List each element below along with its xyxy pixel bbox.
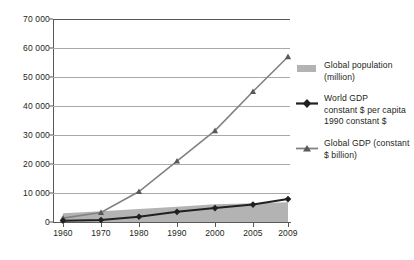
legend-label-line: Global GDP (constant <box>324 138 412 150</box>
x-axis-line <box>53 222 291 223</box>
x-tick-mark <box>177 223 178 227</box>
x-tick-mark <box>215 223 216 227</box>
x-tick-label: 2009 <box>268 228 308 238</box>
series-global-gdp-markers <box>60 54 291 221</box>
series-container <box>53 19 290 222</box>
legend-label: World GDP constant $ per capita 1990 con… <box>324 93 412 128</box>
y-tick-label: 10 000 <box>4 188 50 198</box>
y-tick-label: 60 000 <box>4 43 50 53</box>
x-tick-mark <box>253 223 254 227</box>
y-tick-label: 40 000 <box>4 101 50 111</box>
x-tick-label: 2005 <box>233 228 273 238</box>
legend-label: Global population (million) <box>324 60 412 83</box>
chart-figure: 70 000 60 000 50 000 40 000 30 000 20 00… <box>0 0 414 260</box>
legend-item-global-population: Global population (million) <box>296 60 412 83</box>
legend-label-line: $ billion) <box>324 150 412 162</box>
series-global-gdp-line <box>63 57 288 218</box>
x-tick-label: 1990 <box>157 228 197 238</box>
legend-label-line: constant $ per capita <box>324 105 412 117</box>
x-tick-label: 1960 <box>43 228 83 238</box>
legend-label: Global GDP (constant $ billion) <box>324 138 412 161</box>
y-tick-label: 30 000 <box>4 130 50 140</box>
legend: Global population (million) World GDP co… <box>296 60 412 171</box>
x-tick-label: 1970 <box>81 228 121 238</box>
x-tick-mark <box>288 223 289 227</box>
y-tick-label: 0 <box>4 217 50 227</box>
legend-item-world-gdp: World GDP constant $ per capita 1990 con… <box>296 93 412 128</box>
legend-label-line: (million) <box>324 72 412 84</box>
legend-label-line: 1990 constant $ <box>324 116 412 128</box>
x-tick-mark <box>101 223 102 227</box>
legend-item-global-gdp: Global GDP (constant $ billion) <box>296 138 412 161</box>
x-tick-mark <box>139 223 140 227</box>
line-diamond-icon <box>296 95 318 106</box>
area-swatch-icon <box>296 62 318 73</box>
legend-label-line: Global population <box>324 60 412 72</box>
plot-area <box>53 19 290 222</box>
y-tick-label: 20 000 <box>4 159 50 169</box>
y-tick-label: 50 000 <box>4 72 50 82</box>
line-triangle-icon <box>296 140 318 151</box>
x-tick-mark <box>63 223 64 227</box>
y-tick-label: 70 000 <box>4 14 50 24</box>
x-tick-label: 1980 <box>119 228 159 238</box>
y-axis: 70 000 60 000 50 000 40 000 30 000 20 00… <box>0 0 50 260</box>
legend-label-line: World GDP <box>324 93 412 105</box>
x-tick-label: 2000 <box>195 228 235 238</box>
